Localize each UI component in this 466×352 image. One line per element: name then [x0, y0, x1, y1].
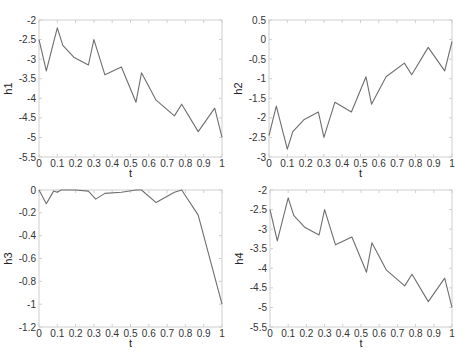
- x-axis-label: t: [129, 167, 132, 179]
- x-axis-label: t: [129, 337, 132, 349]
- x-tick-label: 0.3: [87, 328, 101, 339]
- y-tick-label: -1.2: [19, 322, 37, 333]
- x-tick-label: 0.7: [390, 158, 404, 169]
- y-tick-label: 0: [30, 185, 36, 196]
- subplot-h4: 00.10.20.30.40.50.60.70.80.91-5.5-5-4.5-…: [233, 185, 455, 350]
- x-tick-label: 0.4: [105, 158, 119, 169]
- x-tick-label: 0.4: [105, 328, 119, 339]
- x-tick-label: 0.9: [197, 328, 211, 339]
- data-line: [39, 28, 222, 138]
- x-tick-label: 0.8: [178, 158, 192, 169]
- y-axis-label: h4: [233, 252, 245, 264]
- y-tick-label: -2.5: [249, 132, 267, 143]
- x-tick-label: 0.3: [317, 158, 331, 169]
- x-tick-label: 0.6: [372, 158, 386, 169]
- y-tick-label: -4: [258, 263, 267, 274]
- y-tick-label: -0.2: [19, 207, 37, 218]
- subplot-h1: 00.10.20.30.40.50.60.70.80.91-5.5-5-4.5-…: [2, 15, 225, 180]
- y-tick-label: -3: [27, 54, 36, 65]
- y-tick-label: -4.5: [250, 282, 268, 293]
- x-tick-label: 0.7: [160, 158, 174, 169]
- x-tick-label: 0: [36, 328, 42, 339]
- y-tick-label: -2.5: [19, 34, 37, 45]
- y-tick-label: -3: [258, 224, 267, 235]
- y-tick-label: -5: [27, 132, 36, 143]
- x-tick-label: 1: [219, 328, 225, 339]
- y-tick-label: -3.5: [250, 243, 268, 254]
- x-tick-label: 0.2: [69, 158, 83, 169]
- y-axis-label: h2: [232, 82, 244, 94]
- x-tick-label: 0.9: [427, 328, 441, 339]
- x-axis-label: t: [359, 337, 362, 349]
- x-tick-label: 0.1: [50, 158, 64, 169]
- y-tick-label: -1: [27, 299, 36, 310]
- x-tick-label: 0.2: [299, 158, 313, 169]
- x-tick-label: 0.7: [390, 328, 404, 339]
- y-tick-label: -2: [257, 112, 266, 123]
- y-tick-label: -0.4: [19, 230, 37, 241]
- axes-box: [269, 20, 452, 157]
- y-axis-label: h3: [2, 252, 14, 264]
- x-tick-label: 0.9: [197, 158, 211, 169]
- x-tick-label: 0.4: [335, 158, 349, 169]
- x-tick-label: 0: [267, 328, 273, 339]
- y-tick-label: -3.5: [19, 73, 37, 84]
- x-tick-label: 1: [449, 158, 455, 169]
- figure-canvas: 00.10.20.30.40.50.60.70.80.91-5.5-5-4.5-…: [0, 0, 466, 352]
- x-tick-label: 0.1: [50, 328, 64, 339]
- x-tick-label: 0.8: [178, 328, 192, 339]
- x-tick-label: 0.2: [299, 328, 313, 339]
- y-tick-label: -2: [258, 185, 267, 196]
- x-tick-label: 0.7: [160, 328, 174, 339]
- y-tick-label: 0: [260, 34, 266, 45]
- y-tick-label: -2.5: [250, 204, 268, 215]
- x-tick-label: 0.3: [318, 328, 332, 339]
- y-tick-label: -0.8: [19, 276, 37, 287]
- x-tick-label: 0.2: [69, 328, 83, 339]
- x-tick-label: 0.1: [281, 328, 295, 339]
- y-tick-label: -4.5: [19, 112, 37, 123]
- y-tick-label: -5: [258, 302, 267, 313]
- x-tick-label: 0.8: [408, 158, 422, 169]
- x-tick-label: 0.6: [142, 328, 156, 339]
- axes-box: [39, 190, 222, 327]
- x-tick-label: 0: [266, 158, 272, 169]
- x-tick-label: 0.4: [336, 328, 350, 339]
- subplot-h2: 00.10.20.30.40.50.60.70.80.91-3-2.5-2-1.…: [232, 15, 455, 180]
- y-tick-label: -1.5: [249, 93, 267, 104]
- x-tick-label: 0.6: [372, 328, 386, 339]
- y-tick-label: -5.5: [19, 152, 37, 163]
- x-tick-label: 0.9: [427, 158, 441, 169]
- y-tick-label: -4: [27, 93, 36, 104]
- x-tick-label: 0.3: [87, 158, 101, 169]
- x-tick-label: 0.8: [409, 328, 423, 339]
- y-tick-label: -0.6: [19, 253, 37, 264]
- y-tick-label: -5.5: [250, 322, 268, 333]
- subplot-h3: 00.10.20.30.40.50.60.70.80.91-1.2-1-0.8-…: [2, 185, 225, 350]
- y-tick-label: -1: [257, 73, 266, 84]
- y-tick-label: -3: [257, 152, 266, 163]
- x-tick-label: 0.6: [142, 158, 156, 169]
- y-tick-label: -0.5: [249, 54, 267, 65]
- x-tick-label: 1: [219, 158, 225, 169]
- y-tick-label: -2: [27, 15, 36, 26]
- y-tick-label: 0.5: [252, 15, 266, 26]
- data-line: [270, 198, 452, 308]
- x-axis-label: t: [359, 167, 362, 179]
- x-tick-label: 0: [36, 158, 42, 169]
- data-line: [39, 190, 222, 304]
- x-tick-label: 0.1: [280, 158, 294, 169]
- y-axis-label: h1: [2, 82, 14, 94]
- data-line: [269, 42, 452, 150]
- x-tick-label: 1: [449, 328, 455, 339]
